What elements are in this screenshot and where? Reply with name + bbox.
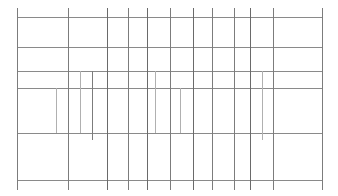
right-border (322, 8, 323, 190)
column-sep-5 (107, 8, 108, 190)
left-border (17, 8, 18, 190)
column-sep-15 (262, 71, 263, 140)
column-sep-9 (170, 8, 171, 190)
column-sep-6 (128, 8, 129, 190)
column-sep-7 (147, 8, 148, 190)
column-sep-1 (56, 88, 57, 133)
column-sep-11 (193, 8, 194, 190)
table-skeleton (0, 0, 338, 196)
column-sep-13 (234, 8, 235, 190)
column-sep-14 (250, 8, 251, 190)
column-sep-2 (68, 8, 69, 190)
column-sep-10 (180, 88, 181, 133)
column-sep-3 (80, 71, 81, 133)
column-sep-8 (155, 71, 156, 133)
column-sep-12 (212, 8, 213, 190)
column-sep-16 (273, 8, 274, 190)
column-sep-4 (92, 71, 93, 140)
